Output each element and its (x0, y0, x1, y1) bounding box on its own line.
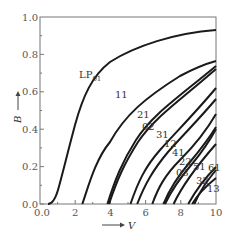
curve-labels: LP01 11 21 02 31 12 41 22 03 51 32 61 13 (79, 69, 221, 194)
arrow-right-icon (120, 223, 125, 228)
label-11: 11 (115, 89, 128, 100)
label-lp01: LP01 (79, 69, 101, 83)
y-axis: 0.0 0.2 0.4 0.6 0.8 1.0 (22, 12, 44, 210)
label-61: 61 (208, 162, 221, 173)
y-tick-1: 0.2 (22, 161, 38, 172)
b-v-chart: 0.0 0.2 0.4 0.6 0.8 1.0 0.0 2 4 6 8 10 V… (0, 0, 229, 234)
svg-text:B: B (12, 116, 23, 124)
label-02: 02 (142, 121, 155, 132)
label-21: 21 (137, 109, 150, 120)
x-tick-4: 8 (178, 207, 184, 218)
x-tick-0: 0.0 (34, 207, 50, 218)
arrow-up-icon (16, 91, 21, 96)
x-tick-5: 10 (210, 207, 223, 218)
y-tick-4: 0.8 (22, 49, 38, 60)
x-tick-2: 4 (107, 207, 113, 218)
label-22: 22 (179, 156, 192, 167)
x-tick-3: 6 (142, 207, 148, 218)
label-51: 51 (193, 161, 206, 172)
svg-text:V: V (128, 220, 137, 231)
x-tick-1: 2 (72, 207, 78, 218)
x-axis-label: V (102, 220, 137, 231)
mode-curves (48, 30, 216, 204)
y-tick-5: 1.0 (22, 12, 38, 23)
label-03: 03 (176, 167, 189, 178)
y-tick-2: 0.4 (22, 124, 38, 135)
label-13: 13 (207, 183, 220, 194)
y-tick-3: 0.6 (22, 86, 38, 97)
